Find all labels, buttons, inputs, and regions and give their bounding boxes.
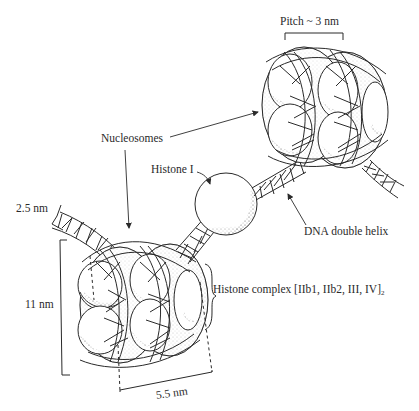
lower-nucleosome-pair xyxy=(78,242,212,392)
dna-helix-arrow xyxy=(288,194,306,225)
histone-i-sphere xyxy=(195,173,257,235)
dna-tail-right xyxy=(362,160,404,198)
pitch-label: Pitch ~ 3 nm xyxy=(280,15,339,28)
histone-complex-text: Histone complex [IIb1, IIb2, III, IV] xyxy=(213,283,381,295)
nucleosomes-label: Nucleosomes xyxy=(101,132,163,145)
pitch-bracket xyxy=(285,33,343,40)
core-height-bracket xyxy=(60,240,70,375)
nucleosomes-arrow-lower xyxy=(125,150,129,228)
dna-width-label: 2.5 nm xyxy=(16,202,48,215)
dna-double-helix-label: DNA double helix xyxy=(304,225,388,238)
upper-nucleosome-pair xyxy=(262,47,388,168)
diagram-artwork xyxy=(0,0,419,411)
histone-i-label: Histone I xyxy=(151,163,193,176)
histone-complex-label: Histone complex [IIb1, IIb2, III, IV]2 xyxy=(213,283,384,300)
core-height-label: 11 nm xyxy=(25,298,54,311)
nucleosome-diagram: Pitch ~ 3 nm Nucleosomes Histone I 2.5 n… xyxy=(0,0,419,411)
nucleosomes-arrow-upper xyxy=(170,112,258,137)
histone-complex-subscript: 2 xyxy=(381,289,385,297)
